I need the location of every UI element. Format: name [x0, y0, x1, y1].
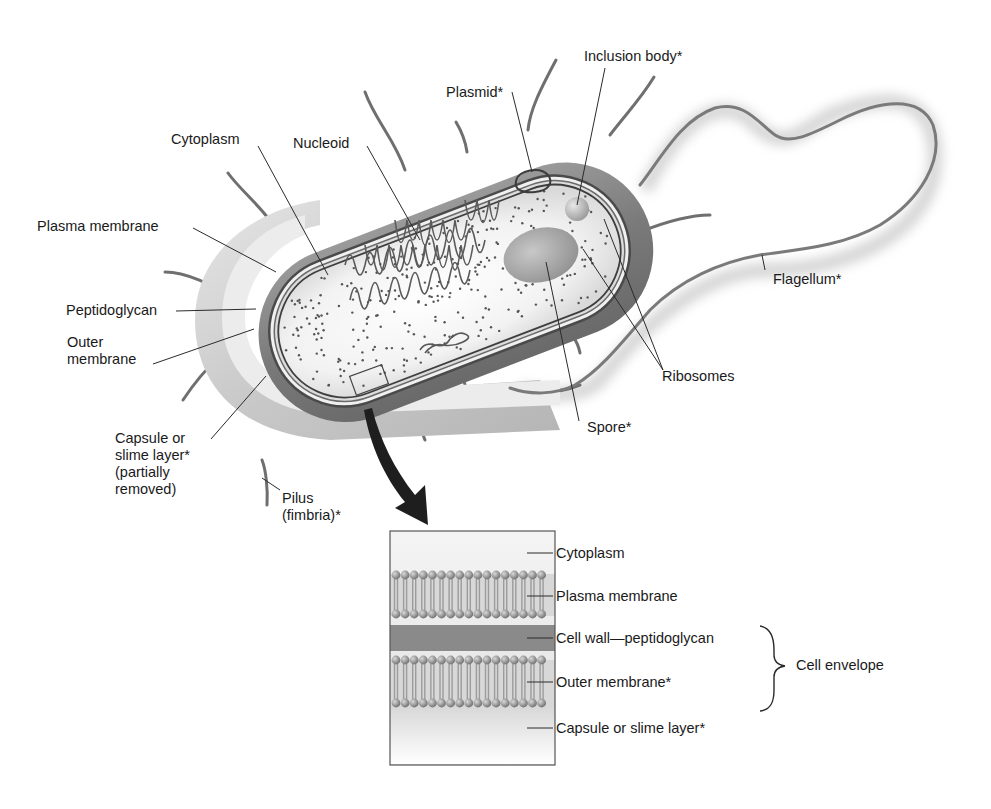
- bacterial-cell-diagram: Cytoplasm Nucleoid Plasmid* Inclusion bo…: [0, 0, 991, 809]
- label-spore: Spore*: [587, 419, 631, 436]
- label-pilus: Pilus (fimbria)*: [282, 490, 341, 524]
- label-ribosomes: Ribosomes: [662, 368, 735, 385]
- inclusion-body: [565, 197, 589, 221]
- label-peptidoglycan: Peptidoglycan: [66, 302, 157, 319]
- cell-envelope-inset: [390, 531, 555, 765]
- label-nucleoid: Nucleoid: [293, 135, 349, 152]
- label-flagellum: Flagellum*: [773, 271, 842, 288]
- inset-label-cell-wall: Cell wall—peptidoglycan: [556, 630, 714, 647]
- label-plasmid: Plasmid*: [446, 84, 503, 101]
- label-capsule: Capsule or slime layer* (partially remov…: [115, 430, 190, 498]
- inset-label-outer-membrane: Outer membrane*: [556, 674, 671, 691]
- diagram-canvas: [0, 0, 991, 809]
- label-inclusion-body: Inclusion body*: [584, 48, 682, 65]
- cell-envelope-bracket: [760, 626, 785, 711]
- label-cytoplasm: Cytoplasm: [171, 131, 240, 148]
- inset-label-plasma-membrane: Plasma membrane: [556, 588, 678, 605]
- label-plasma-membrane: Plasma membrane: [37, 218, 159, 235]
- label-outer-membrane: Outer membrane: [67, 334, 136, 368]
- inset-label-cytoplasm: Cytoplasm: [556, 545, 625, 562]
- inset-label-capsule: Capsule or slime layer*: [556, 720, 705, 737]
- inset-label-cell-envelope: Cell envelope: [796, 657, 884, 674]
